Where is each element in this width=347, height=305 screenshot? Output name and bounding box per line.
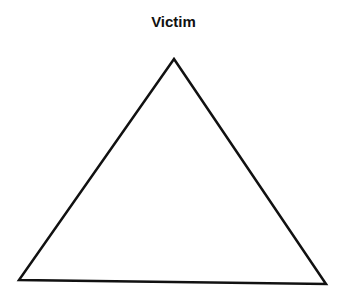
triangle-shape [19,59,326,284]
triangle-diagram [0,0,347,305]
